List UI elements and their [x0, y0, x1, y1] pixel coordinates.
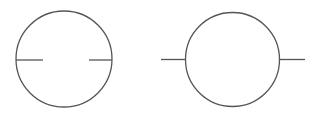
diagram-canvas [0, 0, 319, 119]
left-circle-symbol [16, 11, 112, 107]
right-circle [186, 13, 280, 107]
diagram-svg [0, 0, 319, 119]
left-circle [16, 11, 112, 107]
right-circle-symbol [161, 13, 305, 107]
